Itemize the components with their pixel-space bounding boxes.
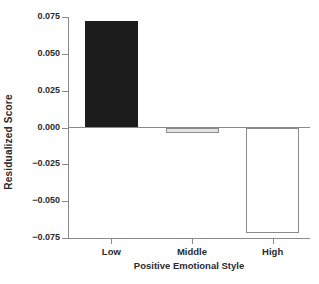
y-tick-mark [62, 164, 68, 165]
y-axis-line [68, 17, 69, 239]
x-axis-title: Positive Emotional Style [68, 260, 310, 271]
x-axis-line [68, 238, 310, 239]
x-tick-mark [192, 239, 193, 244]
y-axis-title: Residualized Score [0, 0, 16, 284]
x-tick-label: Middle [152, 247, 232, 257]
bar-middle [166, 128, 219, 133]
bar-chart-figure: Residualized Score 0.0750.0500.0250.000−… [0, 0, 319, 284]
y-tick-mark [62, 201, 68, 202]
x-tick-label: High [233, 247, 313, 257]
y-tick-label: −0.075 [32, 233, 60, 242]
x-tick-mark [111, 239, 112, 244]
y-tick-label: 0.025 [37, 86, 60, 95]
y-tick-mark [62, 128, 68, 129]
y-tick-mark [62, 54, 68, 55]
y-tick-mark [62, 91, 68, 92]
bar-high [246, 128, 299, 233]
y-tick-label: 0.000 [37, 123, 60, 132]
y-tick-mark [62, 17, 68, 18]
bar-low [85, 21, 138, 127]
x-tick-mark [273, 239, 274, 244]
y-tick-mark [62, 238, 68, 239]
y-tick-label: −0.050 [32, 196, 60, 205]
y-tick-label: 0.075 [37, 12, 60, 21]
x-tick-label: Low [71, 247, 151, 257]
y-tick-label: 0.050 [37, 49, 60, 58]
y-tick-label: −0.025 [32, 159, 60, 168]
